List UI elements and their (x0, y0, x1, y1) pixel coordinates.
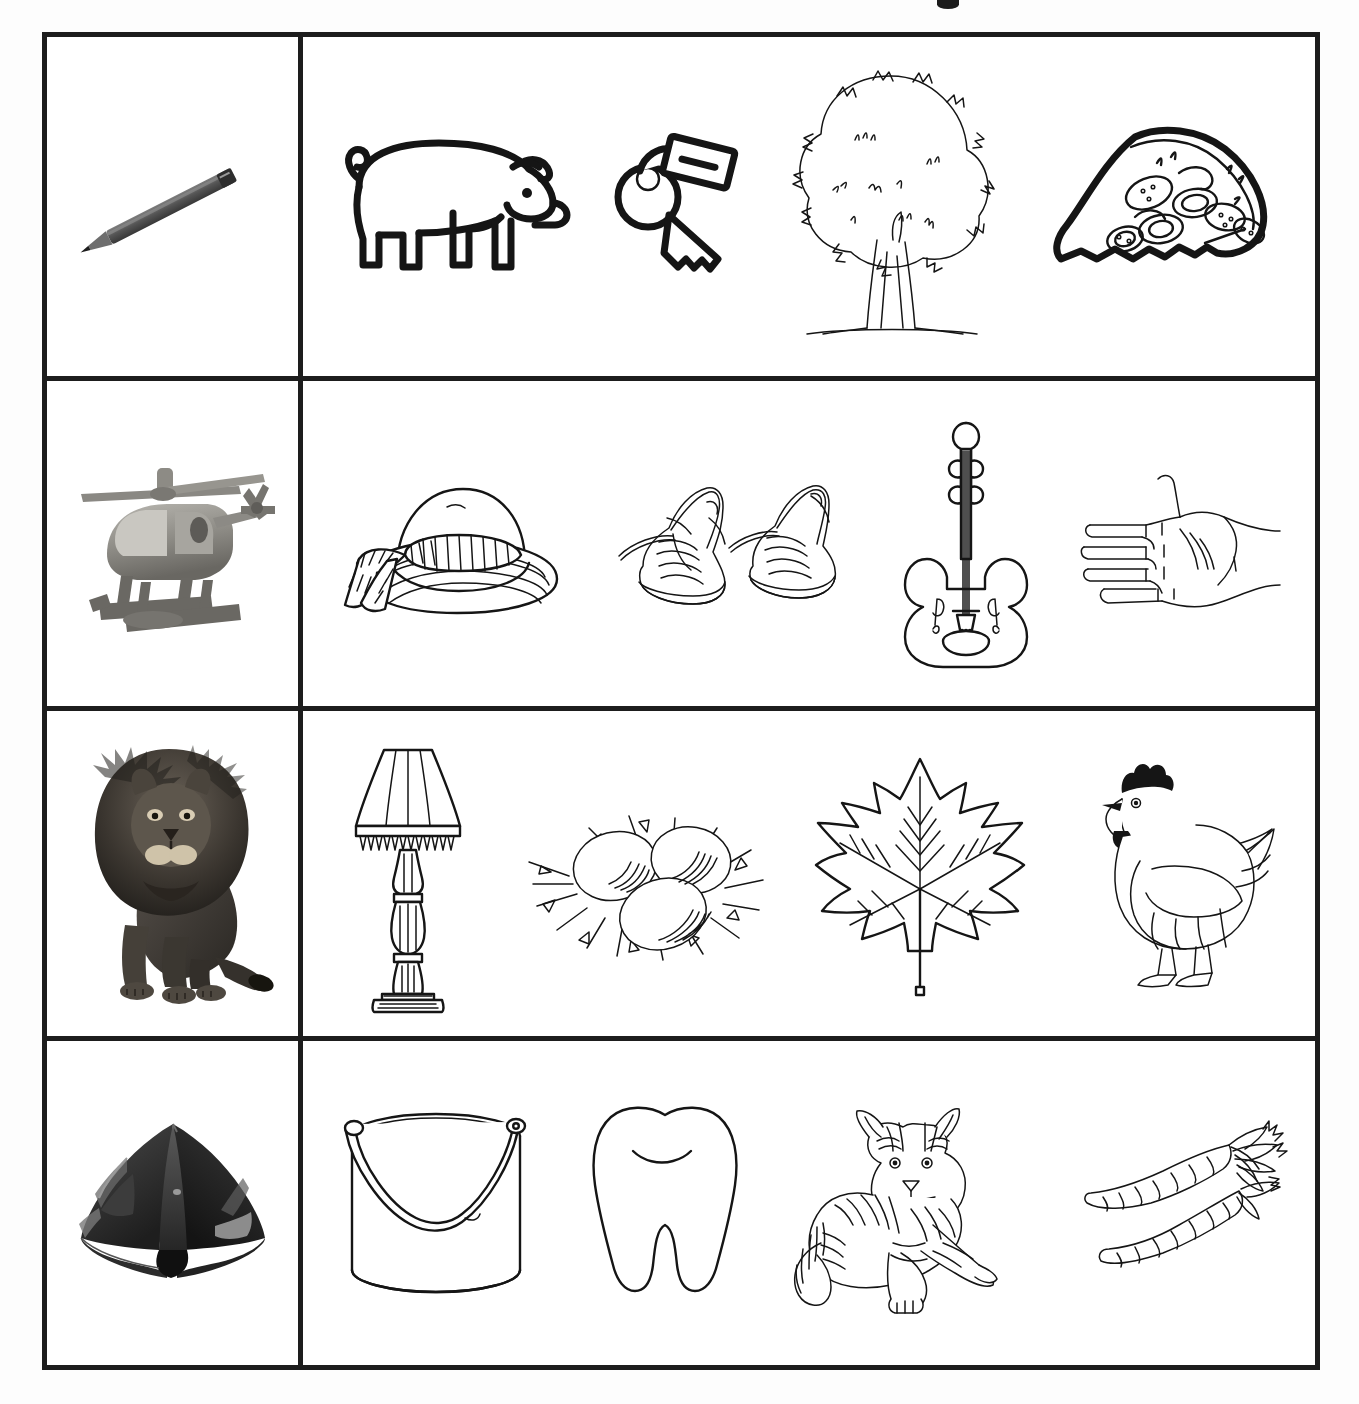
pencil-icon (68, 112, 278, 302)
pig-icon (329, 117, 574, 297)
option-key[interactable] (606, 127, 746, 287)
option-leaf[interactable] (816, 749, 1031, 999)
option-tiger[interactable] (783, 1093, 1033, 1318)
option-pig[interactable] (329, 117, 574, 297)
cue-cell-row-2[interactable] (47, 381, 303, 706)
lamp-icon (338, 734, 478, 1014)
hen-icon (1080, 759, 1280, 989)
option-pizza[interactable] (1039, 107, 1289, 307)
option-hen[interactable] (1080, 759, 1280, 989)
key-icon (606, 127, 746, 287)
tooth-icon (585, 1103, 745, 1308)
leaf-icon (816, 749, 1031, 999)
eggs-icon (527, 784, 767, 964)
option-tooth[interactable] (585, 1103, 745, 1308)
cue-cell-row-1[interactable] (47, 37, 303, 376)
tiger-icon (783, 1093, 1033, 1318)
cue-cell-row-4[interactable] (47, 1041, 303, 1370)
options-cell-row-2 (303, 381, 1315, 706)
option-shoes[interactable] (613, 456, 848, 631)
worksheet-table (42, 32, 1320, 1370)
option-carrots[interactable] (1071, 1111, 1286, 1301)
worksheet-page (0, 0, 1359, 1404)
option-violin[interactable] (891, 409, 1041, 679)
option-bucket[interactable] (332, 1098, 547, 1313)
tree-icon (777, 62, 1007, 352)
lion-icon (65, 729, 280, 1019)
tent-icon (65, 1106, 280, 1306)
option-lamp[interactable] (338, 734, 478, 1014)
shoes-icon (613, 456, 848, 631)
table-row (47, 381, 1315, 711)
option-eggs[interactable] (527, 784, 767, 964)
options-cell-row-4 (303, 1041, 1315, 1370)
option-hat[interactable] (335, 451, 570, 636)
cue-cell-row-3[interactable] (47, 711, 303, 1036)
table-row (47, 37, 1315, 381)
carrots-icon (1071, 1111, 1286, 1301)
helicopter-icon (63, 444, 283, 644)
pizza-icon (1039, 107, 1289, 307)
table-row (47, 1041, 1315, 1370)
hat-icon (335, 451, 570, 636)
options-cell-row-1 (303, 37, 1315, 376)
violin-icon (891, 409, 1041, 679)
cut-off-header-mark (937, 0, 959, 9)
hand-icon (1084, 469, 1284, 619)
bucket-icon (332, 1098, 547, 1313)
option-hand[interactable] (1084, 469, 1284, 619)
option-tree[interactable] (777, 62, 1007, 352)
table-row (47, 711, 1315, 1041)
options-cell-row-3 (303, 711, 1315, 1036)
